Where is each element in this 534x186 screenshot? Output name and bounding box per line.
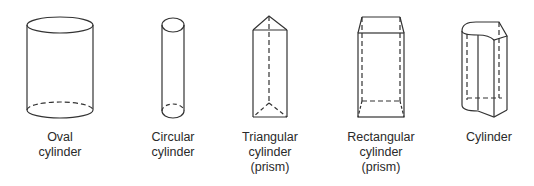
oval-cylinder-shape	[27, 17, 93, 118]
label-circular-cylinder: Circular cylinder	[118, 130, 228, 160]
label-line: Circular	[118, 130, 228, 145]
label-rectangular-cylinder: Rectangular cylinder (prism)	[326, 130, 436, 175]
label-line: cylinder	[326, 145, 436, 160]
rectangular-prism-shape	[358, 17, 404, 117]
label-line: Triangular	[215, 130, 325, 145]
label-line: Rectangular	[326, 130, 436, 145]
label-line: cylinder	[118, 145, 228, 160]
label-line: cylinder	[215, 145, 325, 160]
triangular-prism-shape	[253, 16, 287, 117]
circular-cylinder-shape	[162, 18, 184, 118]
label-line: Cylinder	[434, 130, 534, 145]
label-line: (prism)	[215, 160, 325, 175]
label-line: Oval	[5, 130, 115, 145]
label-cylinder: Cylinder	[434, 130, 534, 145]
label-line: cylinder	[5, 145, 115, 160]
irregular-cylinder-shape	[462, 22, 507, 117]
label-oval-cylinder: Oval cylinder	[5, 130, 115, 160]
label-triangular-cylinder: Triangular cylinder (prism)	[215, 130, 325, 175]
label-line: (prism)	[326, 160, 436, 175]
